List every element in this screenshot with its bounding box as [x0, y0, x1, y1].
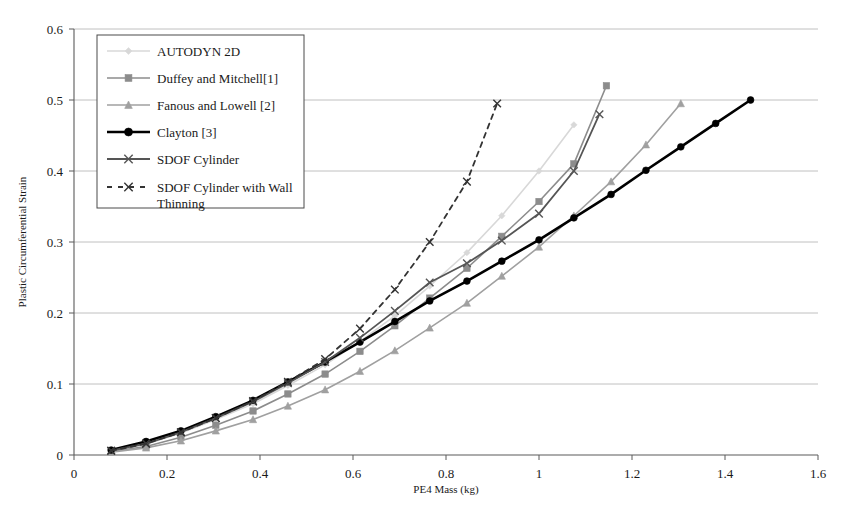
legend-label: AUTODYN 2D: [157, 44, 240, 59]
data-point-marker: [712, 120, 719, 127]
data-point-marker: [285, 391, 291, 397]
y-tick-labels: 00.10.20.30.40.50.6: [47, 22, 64, 463]
y-tick-label: 0.4: [47, 164, 64, 179]
data-point-marker: [677, 143, 684, 150]
legend-label: Clayton [3]: [157, 125, 217, 140]
legend-swatch-marker: [125, 75, 132, 82]
x-tick-label: 0: [71, 466, 78, 481]
x-tick-label: 1.6: [810, 466, 827, 481]
data-point-marker: [747, 97, 754, 104]
x-tick-labels: 00.20.40.60.811.21.41.6: [71, 466, 827, 481]
x-tick-label: 0.6: [345, 466, 362, 481]
y-tick-label: 0.5: [47, 93, 63, 108]
x-tick-label: 1.4: [717, 466, 734, 481]
data-point-marker: [250, 408, 256, 414]
data-point-marker: [357, 348, 363, 354]
legend-label: Duffey and Mitchell[1]: [157, 71, 278, 86]
y-axis-label: Plastic Circumferential Strain: [16, 176, 28, 307]
data-point-marker: [570, 214, 577, 221]
x-tick-label: 0.8: [438, 466, 454, 481]
data-point-marker: [536, 198, 542, 204]
data-point-marker: [536, 236, 543, 243]
x-axis-label: PE4 Mass (kg): [413, 483, 479, 496]
data-point-marker: [322, 371, 328, 377]
x-tick-label: 0.2: [159, 466, 175, 481]
data-point-marker: [608, 191, 615, 198]
chart-figure: 00.20.40.60.811.21.41.6 00.10.20.30.40.5…: [0, 0, 859, 528]
legend-label: SDOF Cylinder with Wall: [157, 180, 293, 195]
plastic-strain-line-chart: 00.20.40.60.811.21.41.6 00.10.20.30.40.5…: [0, 0, 859, 528]
y-tick-label: 0.6: [47, 22, 64, 37]
legend: AUTODYN 2DDuffey and Mitchell[1]Fanous a…: [97, 35, 304, 211]
data-point-marker: [391, 318, 398, 325]
y-tick-label: 0: [57, 448, 64, 463]
data-point-marker: [426, 298, 433, 305]
y-tick-label: 0.3: [47, 235, 63, 250]
data-point-marker: [603, 83, 609, 89]
legend-label-continuation: Thinning: [157, 196, 205, 211]
legend-label: Fanous and Lowell [2]: [157, 98, 275, 113]
y-tick-label: 0.2: [47, 306, 63, 321]
legend-swatch-marker: [125, 128, 133, 136]
data-point-marker: [498, 258, 505, 265]
data-point-marker: [643, 167, 650, 174]
x-tick-label: 1: [536, 466, 543, 481]
data-point-marker: [464, 278, 471, 285]
x-tick-label: 0.4: [252, 466, 269, 481]
y-tick-label: 0.1: [47, 377, 63, 392]
legend-label: SDOF Cylinder: [157, 152, 240, 167]
x-tick-label: 1.2: [624, 466, 640, 481]
